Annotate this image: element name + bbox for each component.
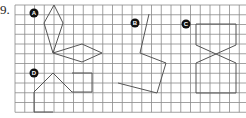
shape-a-vertical-kite: [44, 5, 63, 53]
grid-figure: ABCD: [0, 0, 246, 118]
grid-lines: [15, 5, 246, 112]
label-text-d: D: [32, 70, 37, 76]
shape-a-horizontal-kite: [53, 44, 102, 62]
label-text-a: A: [32, 10, 37, 16]
label-text-b: B: [133, 20, 138, 26]
label-text-c: C: [184, 21, 189, 27]
